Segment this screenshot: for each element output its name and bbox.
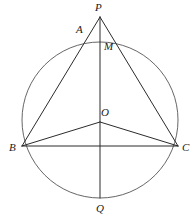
- segment-PB: [22, 17, 100, 146]
- point-label-o: O: [101, 107, 109, 118]
- segment-OC: [100, 122, 178, 146]
- point-label-p: P: [95, 2, 102, 13]
- point-label-q: Q: [96, 203, 104, 214]
- point-label-c: C: [182, 142, 189, 153]
- diagram-canvas: [0, 0, 195, 220]
- point-label-m: M: [104, 41, 113, 52]
- segment-PC: [100, 17, 178, 146]
- point-label-b: B: [9, 142, 16, 153]
- segment-BO: [22, 122, 100, 146]
- geometry-figure: P A M O B C Q: [0, 0, 195, 220]
- point-label-a: A: [76, 24, 83, 35]
